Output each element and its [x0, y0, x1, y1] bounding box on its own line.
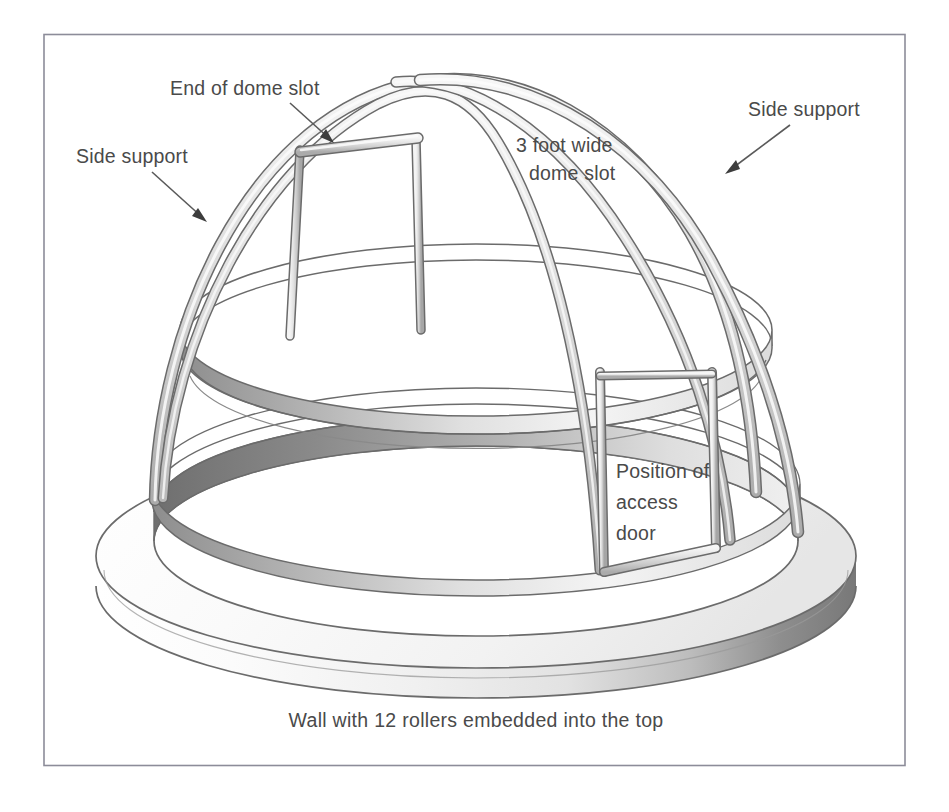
label-access-door-line2: access — [616, 491, 678, 513]
label-access-door-line1: Position of — [616, 460, 710, 482]
access-door-top-rail-fill — [600, 374, 712, 376]
label-access-door-line3: door — [616, 522, 656, 544]
caption-wall-rollers: Wall with 12 rollers embedded into the t… — [289, 709, 664, 731]
label-dome-slot-line1: 3 foot wide — [516, 134, 613, 156]
label-side-support-left: Side support — [76, 145, 188, 167]
label-dome-slot-line2: dome slot — [529, 162, 616, 184]
access-door-post-left-fill — [600, 372, 604, 572]
figure-root: End of dome slot Side support Side suppo… — [0, 0, 949, 812]
label-side-support-right: Side support — [748, 98, 860, 120]
access-door-post-right-fill — [712, 372, 716, 548]
dome-diagram: End of dome slot Side support Side suppo… — [0, 0, 949, 812]
dome-rib-rear-right — [416, 140, 421, 330]
label-end-of-dome-slot: End of dome slot — [170, 77, 320, 99]
wall-cylinder — [96, 417, 856, 698]
